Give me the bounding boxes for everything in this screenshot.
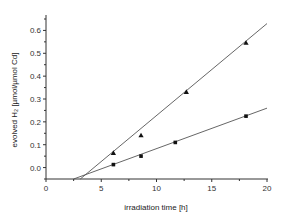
square-marker <box>139 154 143 158</box>
triangle-marker <box>138 133 143 138</box>
square-marker <box>173 141 177 145</box>
fit-line-triangles <box>80 24 267 179</box>
y-tick-label: 0.0 <box>30 164 42 173</box>
y-axis-label: evolved H₂ [µmol/µmol Cd] <box>10 52 19 147</box>
fit-line-squares <box>74 108 267 179</box>
chart: 051015200.00.10.20.30.40.50.6 irradiatio… <box>0 0 285 221</box>
data-points <box>111 40 249 166</box>
y-tick-label: 0.6 <box>30 26 42 35</box>
x-tick-label: 5 <box>99 184 104 193</box>
y-tick-label: 0.3 <box>30 95 42 104</box>
fit-lines <box>74 24 267 179</box>
y-tick-label: 0.2 <box>30 118 42 127</box>
axes: 051015200.00.10.20.30.40.50.6 <box>30 15 272 193</box>
square-marker <box>244 114 248 118</box>
x-axis-label: irradiation time [h] <box>124 203 188 212</box>
x-tick-label: 0 <box>44 184 49 193</box>
square-marker <box>112 163 116 167</box>
y-tick-label: 0.5 <box>30 49 42 58</box>
y-tick-label: 0.1 <box>30 141 42 150</box>
x-tick-label: 15 <box>207 184 216 193</box>
x-tick-label: 20 <box>263 184 272 193</box>
x-tick-label: 10 <box>152 184 161 193</box>
y-tick-label: 0.4 <box>30 72 42 81</box>
